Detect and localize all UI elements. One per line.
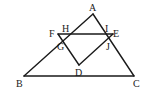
label-D: D: [75, 67, 82, 78]
label-B: B: [16, 78, 23, 89]
label-F: F: [49, 28, 55, 39]
geometry-figure: A B C D E F G H I J: [0, 0, 150, 95]
label-C: C: [133, 78, 140, 89]
label-I: I: [105, 23, 108, 34]
segment-CA: [93, 14, 134, 76]
label-E: E: [113, 28, 119, 39]
label-H: H: [62, 23, 69, 34]
label-G: G: [57, 41, 64, 52]
label-A: A: [89, 2, 97, 13]
label-J: J: [106, 41, 110, 52]
